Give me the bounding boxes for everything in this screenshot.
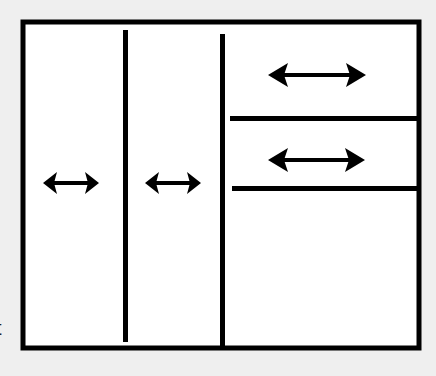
layout-diagram-svg — [0, 0, 436, 376]
diagram: t — [0, 0, 436, 376]
edge-text-fragment: t — [0, 318, 2, 338]
